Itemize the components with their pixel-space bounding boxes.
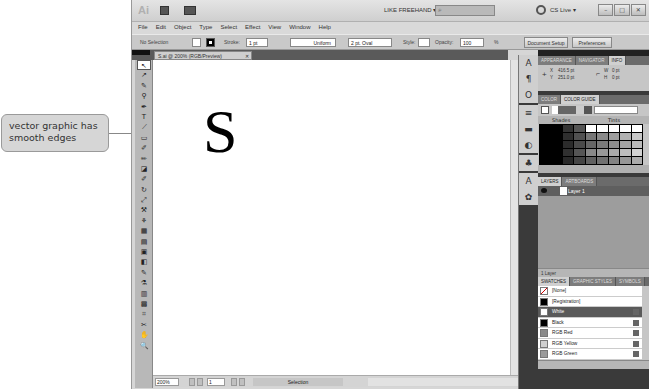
hand-tool-icon[interactable]: ✋ — [137, 330, 151, 340]
line-tool-icon[interactable]: ⟋ — [137, 122, 151, 132]
status-display[interactable]: Selection — [253, 378, 343, 386]
maximize-button[interactable]: □ — [614, 4, 629, 16]
type-tool-icon[interactable]: T — [137, 112, 151, 122]
harmony-rules-dropdown[interactable] — [594, 106, 638, 114]
tab-swatches[interactable]: SWATCHES — [538, 277, 570, 286]
swatch-rgb-green[interactable]: RGB Green — [538, 349, 642, 360]
artwork-letter[interactable]: S — [203, 100, 237, 162]
base-color-swatch[interactable] — [541, 106, 549, 114]
swatch-rgb-yellow[interactable]: RGB Yellow — [538, 339, 642, 350]
gradient-tool-icon[interactable]: ◧ — [137, 257, 151, 267]
rectangle-tool-icon[interactable]: ▭ — [137, 133, 151, 143]
visibility-eye-icon[interactable] — [541, 188, 547, 193]
swatch-registration[interactable]: [Registration] — [538, 297, 642, 308]
menu-edit[interactable]: Edit — [156, 22, 170, 34]
tab-info[interactable]: INFO — [609, 56, 627, 65]
fill-color-swatch[interactable] — [192, 38, 201, 47]
next-artboard-button[interactable] — [231, 378, 237, 386]
character-panel-icon[interactable]: A — [519, 55, 538, 71]
artboard-canvas[interactable]: S — [153, 60, 510, 375]
eraser-tool-icon[interactable]: ✐ — [137, 174, 151, 184]
menu-select[interactable]: Select — [220, 22, 241, 34]
pen-tool-icon[interactable]: ✒ — [137, 102, 151, 112]
tab-color-guide[interactable]: COLOR GUIDE — [561, 95, 600, 104]
document-setup-button[interactable]: Document Setup — [524, 37, 568, 48]
menu-window[interactable]: Window — [289, 22, 314, 34]
tab-navigator[interactable]: NAVIGATOR — [576, 56, 609, 65]
color-variations-grid[interactable] — [539, 124, 643, 165]
harmony-strip[interactable] — [552, 106, 592, 114]
tab-color[interactable]: COLOR — [538, 95, 561, 104]
horizontal-scrollbar[interactable] — [368, 378, 518, 386]
magic-wand-tool-icon[interactable]: ✎ — [137, 81, 151, 91]
swatch-none[interactable]: [None] — [538, 286, 642, 297]
tab-graphic-styles[interactable]: GRAPHIC STYLES — [570, 277, 616, 286]
shape-builder-tool-icon[interactable]: ▦ — [137, 226, 151, 236]
blob-brush-tool-icon[interactable]: ◪ — [137, 164, 151, 174]
gradient-panel-icon[interactable]: ▬ — [519, 121, 538, 137]
document-tab[interactable]: S.ai @ 200% (RGB/Preview) ✕ — [154, 51, 252, 60]
lasso-tool-icon[interactable]: ⚲ — [137, 91, 151, 101]
arrange-documents-icon[interactable] — [184, 6, 196, 15]
swatch-rgb-red[interactable]: RGB Red — [538, 328, 642, 339]
preferences-button[interactable]: Preferences — [572, 37, 612, 48]
stroke-panel-icon[interactable]: ≡ — [519, 105, 538, 121]
brushes-panel-icon[interactable]: ✿ — [519, 189, 538, 205]
tab-appearance[interactable]: APPEARANCE — [538, 56, 576, 65]
close-button[interactable]: ✕ — [631, 4, 646, 16]
last-artboard-button[interactable] — [239, 378, 245, 386]
bridge-icon[interactable] — [160, 6, 169, 15]
column-graph-tool-icon[interactable]: ▩ — [137, 299, 151, 309]
menu-help[interactable]: Help — [319, 22, 335, 34]
vertical-scrollbar[interactable] — [510, 60, 518, 375]
artboard-tool-icon[interactable]: ⌗ — [137, 309, 151, 319]
brush-definition[interactable]: 2 pt. Oval — [348, 38, 392, 47]
pencil-tool-icon[interactable]: ✏ — [137, 154, 151, 164]
cs-live-menu[interactable]: CS Live ▾ — [550, 6, 576, 13]
zoom-level-field[interactable]: 200% — [155, 378, 179, 386]
layer-row[interactable]: Layer 1 — [538, 186, 649, 196]
menu-type[interactable]: Type — [199, 22, 216, 34]
perspective-grid-tool-icon[interactable]: ▤ — [137, 237, 151, 247]
tab-layers[interactable]: LAYERS — [538, 177, 562, 186]
selection-tool-icon[interactable]: ↖ — [137, 60, 151, 70]
swatch-black[interactable]: Black — [538, 318, 642, 329]
menu-view[interactable]: View — [268, 22, 285, 34]
blend-tool-icon[interactable]: ⚗ — [137, 278, 151, 288]
artboard-number-field[interactable]: 1 — [207, 378, 225, 386]
eyedropper-tool-icon[interactable]: ✎ — [137, 268, 151, 278]
free-transform-tool-icon[interactable]: ⚘ — [137, 216, 151, 226]
mesh-tool-icon[interactable]: ▣ — [137, 247, 151, 257]
opentype-panel-icon[interactable]: O — [519, 87, 538, 103]
rotate-tool-icon[interactable]: ↻ — [137, 185, 151, 195]
cs-live-icon[interactable] — [536, 5, 546, 15]
scale-tool-icon[interactable]: ⤢ — [137, 195, 151, 205]
transparency-panel-icon[interactable]: ◐ — [519, 137, 538, 153]
tab-symbols[interactable]: SYMBOLS — [616, 277, 645, 286]
opacity-field[interactable]: 100 — [460, 38, 484, 47]
tools-panel-header[interactable] — [132, 50, 150, 55]
graphic-style-picker[interactable] — [418, 38, 430, 47]
search-input[interactable]: ⌕ — [435, 5, 495, 16]
tab-artboards[interactable]: ARTBOARDS — [562, 177, 597, 186]
symbols-panel-icon[interactable]: ♣ — [519, 155, 538, 171]
stroke-color-swatch[interactable] — [206, 38, 215, 47]
paintbrush-tool-icon[interactable]: ✐ — [137, 143, 151, 153]
menu-effect[interactable]: Effect — [245, 22, 264, 34]
menu-object[interactable]: Object — [174, 22, 195, 34]
menu-file[interactable]: File — [138, 22, 152, 34]
previous-artboard-button[interactable] — [197, 378, 203, 386]
direct-selection-tool-icon[interactable]: ↗ — [137, 70, 151, 80]
minimize-button[interactable]: – — [598, 4, 613, 16]
close-tab-icon[interactable]: ✕ — [245, 52, 249, 60]
paragraph-panel-icon[interactable]: ¶ — [519, 71, 538, 87]
swatch-white[interactable]: White — [538, 307, 642, 318]
stroke-weight-field[interactable]: 1 pt — [246, 38, 268, 47]
workspace-switcher[interactable]: LIKE FREEHAND ▾ — [384, 6, 436, 13]
layer-name[interactable]: Layer 1 — [568, 188, 585, 194]
zoom-tool-icon[interactable]: 🔍 — [137, 341, 151, 351]
slice-tool-icon[interactable]: ✂ — [137, 320, 151, 330]
width-tool-icon[interactable]: ⚒ — [137, 205, 151, 215]
first-artboard-button[interactable] — [189, 378, 195, 386]
symbol-sprayer-tool-icon[interactable]: ▥ — [137, 289, 151, 299]
